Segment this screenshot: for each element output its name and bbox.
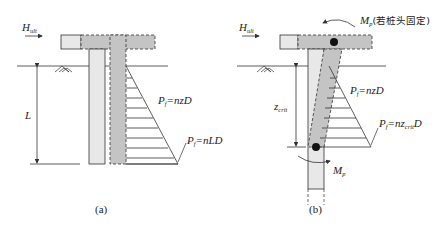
depth-label: L bbox=[24, 109, 31, 121]
top-moment-label: Mp(若桩头固定) bbox=[359, 14, 430, 27]
pressure-base-label: Pf=nLD bbox=[186, 134, 223, 147]
top-moment-arrow bbox=[323, 20, 355, 27]
caption-a: (a) bbox=[95, 203, 108, 216]
soil-hatch-icon bbox=[257, 66, 274, 72]
pile-original bbox=[89, 49, 105, 164]
hinge-moment-label: Mp bbox=[332, 164, 346, 177]
pressure-mid-label: Pf=nzD bbox=[157, 94, 192, 107]
plastic-hinge-top bbox=[330, 38, 338, 46]
pile-lateral-load-diagram: Hult L Pf=nzD Pf=nLD (a) bbox=[0, 0, 447, 229]
pressure-mid-label: Pf=nzD bbox=[349, 84, 384, 97]
depth-label: zcrit bbox=[273, 100, 288, 113]
pressure-base-label: Pf=nzcritD bbox=[378, 117, 422, 130]
leader-line bbox=[178, 143, 186, 162]
soil-pressure-distribution bbox=[126, 66, 178, 164]
panel-a: Hult L Pf=nzD Pf=nLD (a) bbox=[17, 21, 223, 216]
plastic-hinge-lower bbox=[312, 143, 320, 151]
soil-hatch-icon bbox=[55, 66, 72, 72]
panel-b: Hult Mp(若桩头固定) zcrit Pf=nzD Pf=nzcritD M… bbox=[237, 14, 430, 216]
pile-cap-original bbox=[61, 35, 81, 49]
caption-b: (b) bbox=[309, 203, 322, 216]
load-label: Hult bbox=[21, 21, 37, 34]
load-label: Hult bbox=[238, 21, 254, 34]
leader-line bbox=[371, 128, 378, 145]
pile-displaced bbox=[110, 35, 126, 164]
pile-cap-original bbox=[280, 35, 298, 49]
